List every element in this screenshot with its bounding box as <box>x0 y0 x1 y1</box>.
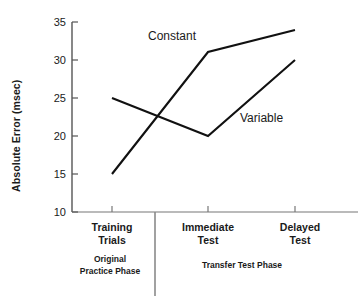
line-chart-canvas: Absolute Error (msec) 35 30 25 20 15 10 <box>0 0 362 303</box>
y-tick-label-25: 25 <box>54 92 66 104</box>
series-label-variable: Variable <box>240 111 283 125</box>
chart-background <box>0 0 362 303</box>
phase-transfer-test: Transfer Test Phase <box>202 260 282 270</box>
series-label-constant: Constant <box>148 29 197 43</box>
y-tick-label-15: 15 <box>54 168 66 180</box>
y-axis-title: Absolute Error (msec) <box>10 80 22 192</box>
category-delayed-test-line2: Test <box>290 234 311 246</box>
category-training-trials-line2: Trials <box>98 234 126 246</box>
y-tick-label-35: 35 <box>54 16 66 28</box>
phase-original-line1: Original <box>94 254 126 264</box>
category-immediate-test-line1: Immediate <box>182 221 234 233</box>
category-training-trials-line1: Training <box>92 221 133 233</box>
y-tick-label-20: 20 <box>54 130 66 142</box>
category-delayed-test-line1: Delayed <box>280 221 320 233</box>
category-immediate-test-line2: Test <box>198 234 219 246</box>
chart-figure: Absolute Error (msec) 35 30 25 20 15 10 <box>0 0 362 303</box>
y-tick-label-10: 10 <box>54 206 66 218</box>
y-tick-label-30: 30 <box>54 54 66 66</box>
phase-original-line2: Practice Phase <box>80 266 141 276</box>
